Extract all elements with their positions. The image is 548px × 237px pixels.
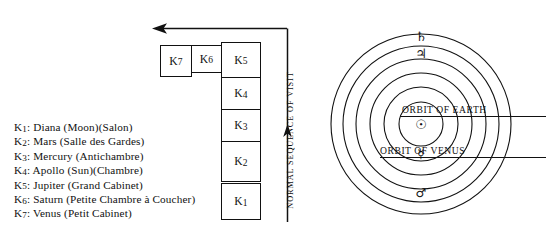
mercury-icon: ☿ [417,147,424,161]
room-box-k6: K6 [191,45,222,73]
sun-icon: ☉ [415,117,427,132]
sequence-arrow-group [0,0,320,237]
room-box-k5: K5 [221,42,261,78]
orbit-svg: ORBIT OF EARTH ORBIT OF VENUS ♄ ♃ ☉ ☿ ♂ [318,0,548,237]
orbit-earth-label: ORBIT OF EARTH [402,104,487,115]
room-box-k4: K4 [221,77,261,110]
room-label: K4 [234,87,248,100]
jupiter-icon: ♃ [415,46,427,61]
orbit-diagram: ORBIT OF EARTH ORBIT OF VENUS ♄ ♃ ☉ ☿ ♂ [318,0,548,237]
room-label: K7 [169,55,183,68]
figure-root: K1: Diana (Moon)(Salon) K2: Mars (Salle … [0,0,548,237]
room-label: K1 [234,195,248,208]
sequence-of-visit-label: NORMAL SEQUENCE OF VISIT [286,70,295,210]
room-label: K6 [200,53,214,66]
room-label: K5 [234,54,248,67]
room-box-k7: K7 [160,45,192,77]
room-plan: K7 K6 K5 K4 K3 K2 K1 [0,0,320,237]
sequence-arrow-left-head [152,23,167,33]
room-box-k1: K1 [221,183,261,220]
room-label: K3 [234,119,248,132]
room-box-k3: K3 [221,109,261,142]
room-label: K2 [234,155,248,168]
room-box-k2: K2 [221,141,261,182]
saturn-icon: ♄ [415,29,427,44]
mars-icon: ♂ [416,186,427,200]
